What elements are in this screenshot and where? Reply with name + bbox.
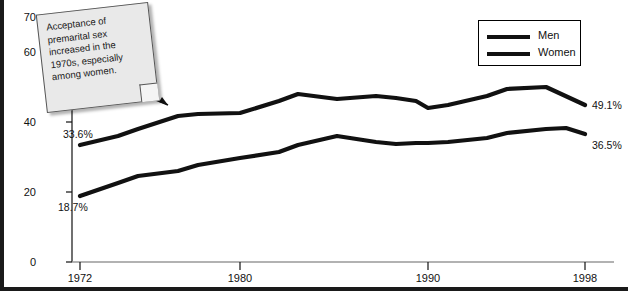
legend-swatch-women [487, 52, 530, 56]
y-tick-label-20: 20 [10, 186, 36, 198]
value-label-men-start: 33.6% [63, 128, 93, 140]
x-tick-label-1980: 1980 [218, 272, 262, 284]
annotation-note: Acceptance of premarital sex increased i… [36, 2, 159, 113]
y-tick-label-40: 40 [10, 116, 36, 128]
note-folded-corner-icon [139, 82, 159, 102]
x-tick-label-1998: 1998 [563, 272, 607, 284]
series-line-women [80, 128, 585, 196]
y-tick-label-70: 70 [10, 11, 36, 23]
y-tick-label-60: 60 [10, 46, 36, 58]
legend-label-women: Women [538, 46, 576, 58]
legend: Men Women [478, 20, 581, 66]
x-tick-label-1990: 1990 [406, 272, 450, 284]
value-label-women-start: 18.7% [58, 201, 88, 213]
value-label-women-end: 36.5% [592, 139, 622, 151]
chart-container: 70 60 40 20 0 1972 1980 1990 1998 33.6% … [0, 0, 628, 291]
legend-swatch-men [487, 35, 530, 39]
legend-label-men: Men [538, 29, 559, 41]
x-tick-label-1972: 1972 [58, 272, 102, 284]
value-label-men-end: 49.1% [592, 99, 622, 111]
annotation-note-text: Acceptance of premarital sex increased i… [46, 11, 150, 85]
y-tick-label-0: 0 [10, 256, 36, 268]
